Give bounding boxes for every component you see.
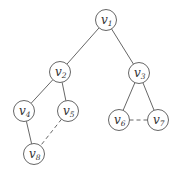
graph-diagram: v1v2v3v4v5v6v7v8 — [0, 0, 185, 189]
edge-v1-v2 — [67, 28, 99, 64]
node-v8: v8 — [24, 144, 45, 165]
edge-v1-v3 — [112, 29, 134, 64]
edge-v3-v7 — [143, 83, 154, 111]
node-v1: v1 — [96, 10, 117, 31]
edge-v2-v4 — [31, 80, 53, 104]
node-v6: v6 — [109, 110, 130, 131]
nodes-layer: v1v2v3v4v5v6v7v8 — [14, 10, 169, 165]
node-v4: v4 — [14, 101, 35, 122]
edge-v3-v6 — [123, 83, 135, 111]
node-v2: v2 — [50, 62, 71, 83]
edge-v4-v8 — [26, 121, 31, 144]
edges-layer — [26, 28, 154, 146]
edge-v2-v5 — [62, 82, 66, 100]
node-v3: v3 — [129, 63, 150, 84]
edge-v5-v8 — [41, 119, 62, 146]
node-v7: v7 — [148, 110, 169, 131]
node-v5: v5 — [58, 101, 79, 122]
